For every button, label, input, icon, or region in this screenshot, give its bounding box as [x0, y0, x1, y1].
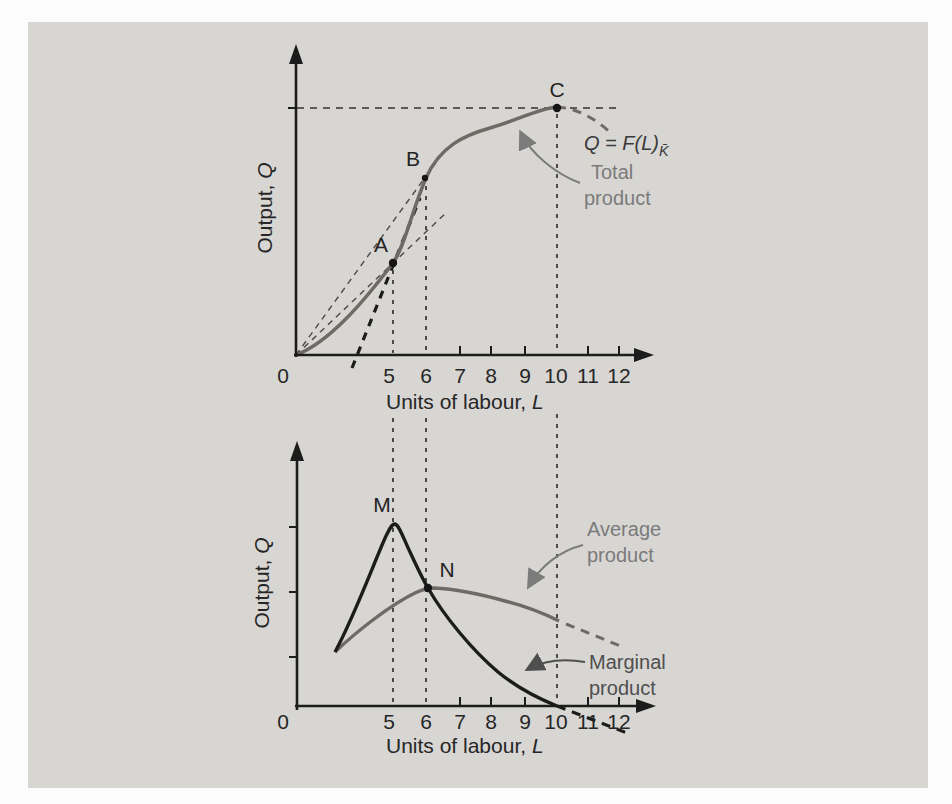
tick-label-10: 10 [544, 364, 567, 387]
top-y-axis-arrow-icon [289, 44, 303, 64]
point-c-label: C [549, 78, 564, 101]
bottom-x-axis-arrow-icon [636, 699, 656, 713]
point-n-dot [424, 584, 432, 592]
average-product-label-line1: Average [587, 518, 661, 540]
bottom-x-axis-title-variable: L [532, 734, 544, 757]
point-b-label: B [406, 147, 420, 170]
bottom-y-axis-title: Output, Q [250, 537, 273, 628]
point-c-dot [553, 104, 561, 112]
ray-through-a [296, 212, 447, 355]
average-product-pointer-arrow-icon [529, 545, 583, 586]
tick-label-6: 6 [420, 364, 432, 387]
top-chart: A B C Q = F(L)K̄ Total product 0 5 6 7 8… [253, 44, 670, 413]
point-b-dot [422, 175, 428, 181]
marginal-product-label-line2: product [589, 677, 656, 699]
bottom-y-axis-title-variable: Q [250, 537, 273, 553]
top-y-axis-title: Output, Q [253, 162, 276, 253]
origin-label: 0 [277, 710, 289, 733]
tick-label-7: 7 [454, 364, 466, 387]
production-function-figure: A B C Q = F(L)K̄ Total product 0 5 6 7 8… [0, 0, 952, 804]
top-guides [297, 108, 618, 353]
average-product-curve [335, 588, 559, 652]
bottom-chart: M N Average product Marginal product 0 5… [250, 441, 666, 757]
bottom-x-axis-title-text: Units of labour, [386, 734, 532, 757]
bottom-y-axis-arrow-icon [290, 441, 304, 461]
tick-label-7: 7 [454, 710, 466, 733]
formula-main: Q = F(L) [584, 132, 659, 154]
production-function-formula: Q = F(L)K̄ [584, 132, 670, 159]
tick-label-11: 11 [577, 710, 599, 733]
origin-label: 0 [277, 364, 289, 387]
point-m-label: M [373, 493, 391, 516]
tick-label-11: 11 [577, 364, 599, 387]
average-product-label-line2: product [587, 544, 654, 566]
shared-guides [393, 414, 557, 703]
tick-label-12: 12 [607, 364, 630, 387]
top-x-tick-labels: 0 5 6 7 8 9 10 11 12 [277, 364, 631, 387]
tick-label-9: 9 [519, 364, 531, 387]
tick-label-6: 6 [420, 710, 432, 733]
average-product-curve-dashed-continuation [566, 624, 625, 648]
top-y-axis-title-variable: Q [253, 162, 276, 178]
tick-label-5: 5 [383, 710, 395, 733]
top-x-axis-title-variable: L [532, 390, 544, 413]
bottom-x-tick-labels: 0 5 6 7 8 9 10 11 12 [277, 710, 631, 733]
marginal-product-curve [335, 524, 557, 706]
total-product-curve-dashed-continuation [557, 107, 612, 134]
bottom-x-axis-title: Units of labour, L [386, 734, 544, 757]
tick-label-9: 9 [519, 710, 531, 733]
point-a-dot [389, 259, 397, 267]
total-product-label-line2: product [584, 187, 651, 209]
figure-page: A B C Q = F(L)K̄ Total product 0 5 6 7 8… [0, 0, 952, 804]
tick-label-8: 8 [485, 710, 497, 733]
bottom-y-axis-title-text: Output, [250, 554, 273, 629]
formula-subscript: K̄ [659, 143, 670, 159]
top-x-axis-arrow-icon [634, 348, 654, 362]
total-product-pointer-arrow-icon [521, 133, 580, 183]
tick-label-8: 8 [485, 364, 497, 387]
top-y-axis-title-text: Output, [253, 179, 276, 254]
tick-label-10: 10 [544, 710, 567, 733]
point-n-label: N [439, 558, 454, 581]
tick-label-5: 5 [383, 364, 395, 387]
top-x-axis-title: Units of labour, L [386, 390, 544, 413]
top-x-axis-title-text: Units of labour, [386, 390, 532, 413]
tick-label-12: 12 [607, 710, 630, 733]
point-a-label: A [374, 233, 388, 256]
marginal-product-label-line1: Marginal [589, 651, 666, 673]
total-product-label-line1: Total [591, 161, 633, 183]
